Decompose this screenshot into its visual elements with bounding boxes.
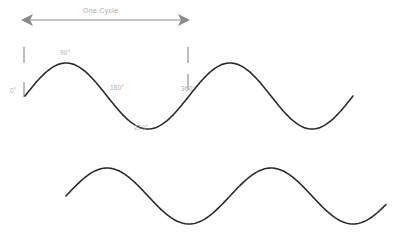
degree-label-270: 270° [134, 125, 148, 132]
sine-wave-diagram: One Cycle 0° 90° 180° 270° 360° [0, 0, 401, 236]
degree-label-90: 90° [60, 50, 70, 57]
degree-label-180: 180° [110, 85, 124, 92]
upper-sine-wave [25, 63, 353, 129]
tick-mark-group [24, 47, 188, 97]
degree-label-0: 0° [10, 88, 17, 95]
one-cycle-arrow [21, 14, 190, 26]
lower-sine-wave [66, 168, 386, 224]
degree-label-360: 360° [181, 86, 195, 93]
one-cycle-label: One Cycle [83, 7, 118, 14]
diagram-canvas [0, 0, 401, 236]
